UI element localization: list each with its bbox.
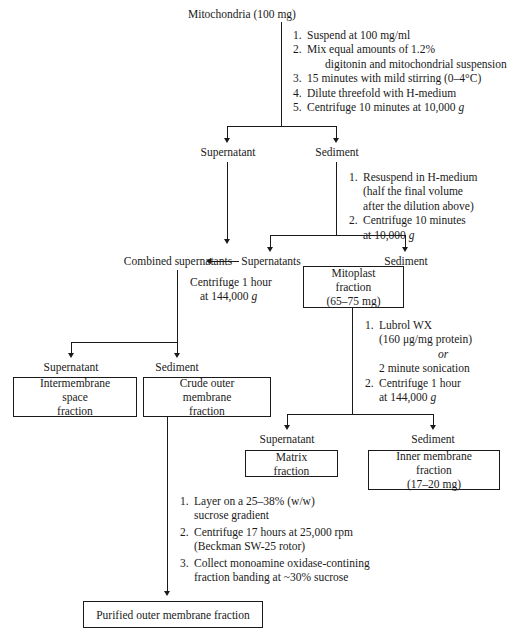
step-text: Dilute threefold with H-medium	[307, 86, 456, 100]
step-number: 2.	[349, 213, 363, 227]
box-line-1: Matrix fraction	[252, 450, 331, 478]
connector-split-2	[270, 235, 406, 236]
connector-split-1	[227, 126, 337, 127]
connector-split-4	[287, 414, 434, 415]
connector-supernatant-1-down	[227, 162, 228, 240]
connector-split-3	[71, 342, 178, 343]
step-text-continued: at 144,000 g	[200, 289, 272, 303]
node-mitochondria: Mitochondria (100 mg)	[188, 8, 296, 21]
step-text-continued: at 144,000 g	[379, 390, 507, 404]
step-number: 4.	[293, 86, 307, 100]
arrow-to-purified-outer-membrane	[164, 591, 170, 596]
step-text: Centrifuge 1 hour	[379, 376, 461, 390]
node-sediment-4: Sediment	[402, 433, 464, 446]
arrow-to-combined-supernatants-left	[206, 258, 211, 264]
box-intermembrane-space-fraction: Intermembrane space fraction	[13, 377, 137, 417]
step-text: Lubrol WX	[379, 318, 432, 332]
step-text-continued: (160 μg/mg protein)	[379, 332, 507, 346]
step-text: Centrifuge 10 minutes at 10,000 g	[307, 100, 464, 114]
arrow-to-sediment-1	[333, 138, 339, 143]
step-text: Centrifuge 1 hour	[190, 275, 272, 289]
box-line-2: (65–75 mg)	[310, 294, 397, 308]
steps-group-3: Centrifuge 1 hour at 144,000 g	[190, 275, 272, 304]
connector-sediment-1-down	[336, 162, 337, 235]
connector-supernatants-to-combined	[211, 261, 239, 262]
box-line-2: fraction	[150, 404, 264, 418]
box-line-1: Crude outer membrane	[150, 376, 264, 404]
box-purified-outer-membrane-fraction: Purified outer membrane fraction	[83, 601, 263, 628]
step-text-continued: digitonin and mitochondrial suspension	[325, 57, 507, 71]
box-line-1: Mitoplast fraction	[310, 266, 397, 294]
step-number: 3.	[180, 556, 194, 570]
step-number: 1.	[293, 28, 307, 42]
steps-group-2: 1.Resuspend in H-medium (half the final …	[349, 170, 477, 242]
step-text: Suspend at 100 mg/ml	[307, 28, 410, 42]
steps-group-1: 1.Suspend at 100 mg/ml 2.Mix equal amoun…	[293, 28, 507, 114]
step-number: 1.	[349, 170, 363, 184]
step-text: Collect monoamine oxidase-contining	[194, 556, 370, 570]
node-supernatant-3: Supernatant	[36, 361, 106, 374]
box-line-1: Purified outer membrane fraction	[90, 608, 256, 622]
connector-main-top	[281, 22, 282, 126]
arrow-to-sediment-4	[430, 425, 436, 430]
connector-combined-down	[177, 270, 178, 342]
step-text: 15 minutes with mild stirring (0–4°C)	[307, 71, 481, 85]
step-number: 3.	[293, 71, 307, 85]
node-sediment-1: Sediment	[306, 146, 368, 159]
node-supernatants-2: Supernatants	[236, 255, 306, 268]
arrow-to-supernatant-1	[224, 138, 230, 143]
node-supernatant-4: Supernatant	[252, 433, 322, 446]
step-number: 1.	[365, 318, 379, 332]
flowchart-diagram: Mitochondria (100 mg) 1.Suspend at 100 m…	[0, 0, 510, 634]
steps-group-4: 1.Lubrol WX (160 μg/mg protein) or 2 min…	[365, 318, 507, 404]
step-text: Mix equal amounts of 1.2%	[307, 42, 435, 56]
step-text: Centrifuge 10 minutes	[363, 213, 466, 227]
arrow-to-sediment-3	[174, 353, 180, 358]
arrow-to-supernatants-2	[267, 247, 273, 252]
node-sediment-3: Sediment	[146, 361, 208, 374]
arrow-to-supernatant-3	[68, 353, 74, 358]
step-text: Resuspend in H-medium	[363, 170, 477, 184]
arrow-to-supernatant-4	[284, 425, 290, 430]
box-line-1: Inner membrane fraction	[375, 449, 493, 477]
box-inner-membrane-fraction: Inner membrane fraction (17–20 mg)	[368, 450, 500, 490]
box-line-2: (17–20 mg)	[375, 477, 493, 491]
step-text: Layer on a 25–38% (w/w)	[194, 494, 315, 508]
step-text-continued: after the dilution above)	[363, 199, 477, 213]
step-number: 2.	[180, 525, 194, 539]
box-crude-outer-membrane-fraction: Crude outer membrane fraction	[143, 377, 271, 417]
step-text-continued: (half the final volume	[363, 184, 477, 198]
step-text-continued: fraction banding at ~30% sucrose	[194, 570, 370, 584]
steps-group-5: 1.Layer on a 25–38% (w/w) sucrose gradie…	[180, 494, 370, 584]
step-text-continued: sucrose gradient	[194, 508, 370, 522]
connector-crude-outer-down	[167, 417, 168, 592]
step-number: 2.	[293, 42, 307, 56]
box-matrix-fraction: Matrix fraction	[245, 450, 338, 477]
step-text-continued: 2 minute sonication	[379, 361, 507, 375]
step-number: 5.	[293, 100, 307, 114]
box-line-2: fraction	[20, 404, 130, 418]
box-mitoplast-fraction: Mitoplast fraction (65–75 mg)	[303, 266, 404, 308]
arrow-to-sediment-2	[402, 247, 408, 252]
node-supernatant-1: Supernatant	[193, 146, 263, 159]
step-text-or: or	[379, 347, 507, 361]
step-text: Centrifuge 17 hours at 25,000 rpm	[194, 525, 353, 539]
step-number: 2.	[365, 376, 379, 390]
step-text-continued: (Beckman SW-25 rotor)	[194, 539, 370, 553]
arrow-to-combined-supernatants	[224, 239, 230, 244]
box-line-1: Intermembrane space	[20, 376, 130, 404]
step-number: 1.	[180, 494, 194, 508]
connector-mitoplast-down	[352, 308, 353, 414]
